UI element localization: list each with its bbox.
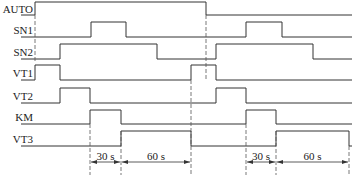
waveform-vt3 — [21, 131, 352, 146]
waveform-sn2 — [21, 44, 352, 59]
waveform-km — [21, 110, 352, 124]
waveform-vt2 — [21, 88, 352, 103]
dimension-label-60s-1: 60 s — [121, 151, 191, 162]
dimension-label-60s-2: 60 s — [276, 151, 349, 162]
dimension-label-30s-1: 30 s — [90, 151, 121, 162]
signal-label-vt3: VT3 — [0, 134, 33, 145]
waveform-sn1 — [21, 22, 352, 37]
waveform-vt1 — [21, 65, 352, 80]
waveform-auto — [21, 2, 352, 15]
signal-label-sn1: SN1 — [0, 25, 33, 36]
signal-label-auto: AUTO — [0, 4, 33, 15]
dimension-label-30s-2: 30 s — [246, 151, 276, 162]
signal-label-sn2: SN2 — [0, 47, 33, 58]
signal-label-vt1: VT1 — [0, 68, 33, 79]
signal-label-vt2: VT2 — [0, 91, 33, 102]
signal-label-km: KM — [0, 112, 33, 123]
signal-waveforms — [21, 2, 352, 146]
